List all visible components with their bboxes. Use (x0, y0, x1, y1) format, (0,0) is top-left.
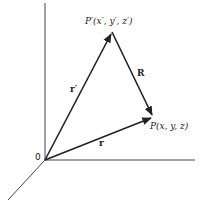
vector-r (45, 118, 151, 160)
label-origin: 0 (35, 153, 41, 162)
label-p: P(x, y, z) (150, 122, 188, 131)
label-p-prime: P′(x′, y′, z′) (85, 17, 133, 26)
axes (8, 3, 195, 200)
vector-diagram (0, 0, 200, 202)
label-r: r (99, 139, 104, 148)
x-axis (8, 160, 45, 200)
label-R: R (137, 69, 144, 78)
label-r-prime: r′ (70, 85, 77, 94)
vector-R (112, 32, 152, 115)
